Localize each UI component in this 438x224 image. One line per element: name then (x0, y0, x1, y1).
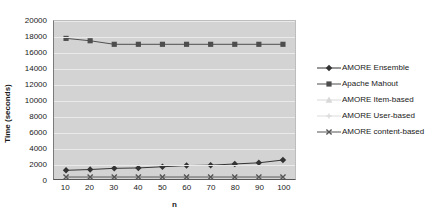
gridline (54, 69, 295, 70)
x-axis-title: n (53, 200, 296, 209)
y-axis-tick-label: 8000 (29, 112, 47, 121)
data-point (160, 42, 165, 47)
legend-label: Apache Mahout (342, 80, 398, 88)
data-point (232, 42, 237, 47)
legend-item: AMORE User-based (316, 108, 436, 124)
y-axis-title: Time (seconds) (0, 58, 14, 168)
y-axis-tick-labels: 0200040006000800010000120001400016000180… (14, 0, 50, 224)
x-axis-tick-label: 90 (255, 183, 264, 192)
data-point (63, 167, 69, 173)
data-point (136, 42, 141, 47)
legend-marker-triangle-icon (316, 92, 342, 108)
x-axis-tick-label: 30 (109, 183, 118, 192)
gridline (54, 165, 295, 166)
series-line (66, 38, 283, 44)
y-axis-tick-label: 12000 (25, 80, 47, 89)
x-axis-tick-label: 70 (206, 183, 215, 192)
data-point (280, 157, 286, 163)
y-axis-title-text: Time (seconds) (3, 84, 12, 143)
chart-legend: AMORE EnsembleApache MahoutAMORE Item-ba… (316, 60, 436, 140)
y-axis-tick-label: 20000 (25, 16, 47, 25)
legend-marker-x-icon (316, 124, 342, 140)
data-point (111, 165, 117, 171)
x-axis-tick-label: 20 (85, 183, 94, 192)
series-canvas (54, 21, 295, 179)
plot-area (53, 20, 296, 180)
series-amore-item-based (63, 174, 287, 179)
gridline (54, 53, 295, 54)
legend-marker-square-icon (316, 76, 342, 92)
data-point (184, 42, 189, 47)
y-axis-tick-label: 6000 (29, 128, 47, 137)
y-axis-tick-label: 10000 (25, 96, 47, 105)
x-axis-tick-labels: 102030405060708090100 (53, 183, 296, 199)
legend-label: AMORE Ensemble (342, 64, 409, 72)
x-axis-tick-label: 60 (182, 183, 191, 192)
series-amore-content-based (63, 174, 285, 179)
gridline (54, 85, 295, 86)
data-point (280, 42, 285, 47)
gridline (54, 101, 295, 102)
x-axis-tick-label: 40 (134, 183, 143, 192)
x-axis-tick-label: 50 (158, 183, 167, 192)
gridline (54, 117, 295, 118)
data-point (87, 166, 93, 172)
legend-label: AMORE content-based (342, 128, 424, 136)
x-axis-tick-label: 10 (61, 183, 70, 192)
data-point (112, 42, 117, 47)
legend-item: AMORE Ensemble (316, 60, 436, 76)
y-axis-tick-label: 16000 (25, 48, 47, 57)
gridline (54, 149, 295, 150)
legend-label: AMORE Item-based (342, 96, 414, 104)
legend-item: AMORE Item-based (316, 92, 436, 108)
legend-item: AMORE content-based (316, 124, 436, 140)
x-axis-tick-label: 100 (277, 183, 290, 192)
y-axis-tick-label: 14000 (25, 64, 47, 73)
data-point (256, 42, 261, 47)
legend-label: AMORE User-based (342, 112, 415, 120)
legend-marker-diamond-icon (316, 60, 342, 76)
data-point (208, 42, 213, 47)
y-axis-tick-label: 0 (43, 176, 47, 185)
gridline (54, 133, 295, 134)
y-axis-tick-label: 18000 (25, 32, 47, 41)
data-point (88, 38, 93, 43)
data-point (232, 161, 238, 167)
chart-figure: Time (seconds) 0200040006000800010000120… (0, 0, 438, 224)
gridline (54, 21, 295, 22)
y-axis-tick-label: 4000 (29, 144, 47, 153)
legend-item: Apache Mahout (316, 76, 436, 92)
legend-marker-cross-icon (316, 108, 342, 124)
gridline (54, 37, 295, 38)
y-axis-tick-label: 2000 (29, 160, 47, 169)
x-axis-tick-label: 80 (231, 183, 240, 192)
